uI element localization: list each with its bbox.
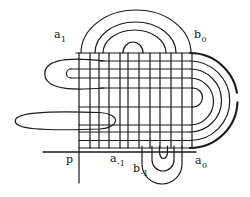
label-a1: a1 — [54, 29, 66, 41]
label-p: p — [66, 154, 73, 165]
label-a-minus1-base: a — [110, 152, 117, 165]
label-a1-base: a — [54, 28, 61, 41]
label-a1-sub: 1 — [61, 35, 66, 44]
left-paperclip-turn — [66, 69, 71, 78]
label-p-base: p — [66, 153, 73, 166]
arc-break-gap — [234, 94, 240, 102]
label-b0: b0 — [194, 29, 206, 41]
label-b0-sub: 0 — [202, 35, 207, 44]
label-b0-base: b — [194, 28, 201, 41]
label-b-minus1-base: b — [133, 162, 140, 175]
label-b-minus1: b-1 — [133, 163, 148, 175]
label-b-minus1-sub: -1 — [141, 169, 149, 178]
right-small-u-turn — [193, 88, 203, 107]
top-nested-arcs — [81, 10, 191, 53]
right-nested-arcs — [190, 61, 230, 141]
left-lower-lens-loop — [15, 112, 115, 130]
curve-diagram-svg — [0, 0, 250, 197]
grid-horizontal-lines — [71, 53, 193, 148]
left-upper-ellipse-loop — [45, 59, 104, 89]
label-a0-base: a — [195, 154, 202, 167]
label-a-minus1-sub: -1 — [117, 159, 125, 168]
label-a-minus1: a-1 — [110, 153, 124, 165]
label-a0: a0 — [195, 155, 207, 167]
label-a0-sub: 0 — [202, 161, 207, 170]
figure-canvas: a1 b0 p a-1 b-1 a0 — [0, 0, 250, 197]
